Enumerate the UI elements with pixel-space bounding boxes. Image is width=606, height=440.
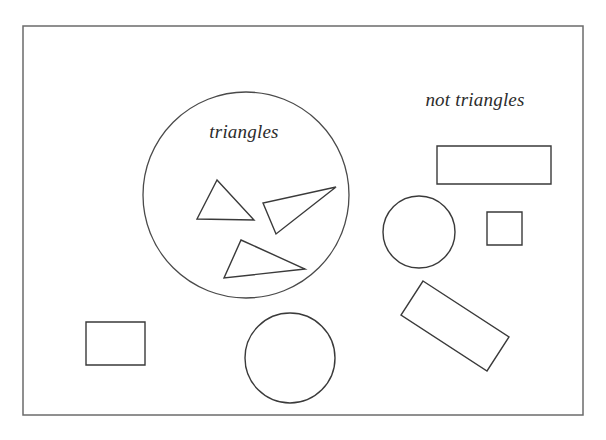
not-triangles-set-label: not triangles [425, 89, 524, 110]
triangle-right-sliver [263, 187, 336, 234]
triangles-set-label: triangles [209, 121, 278, 142]
circle-bottom-center [245, 313, 335, 403]
rectangle-bottom-left [86, 322, 145, 365]
universe-frame [23, 26, 583, 415]
rectangle-tilted [401, 281, 509, 371]
circle-right-medium [383, 196, 455, 268]
diagram-root: triangles not triangles [0, 0, 606, 440]
classification-diagram: triangles not triangles [0, 0, 606, 440]
square-small-right [487, 212, 522, 245]
triangle-lower-wide [224, 240, 305, 278]
triangle-upper-left [197, 180, 254, 220]
rectangle-wide-top-right [437, 146, 551, 184]
